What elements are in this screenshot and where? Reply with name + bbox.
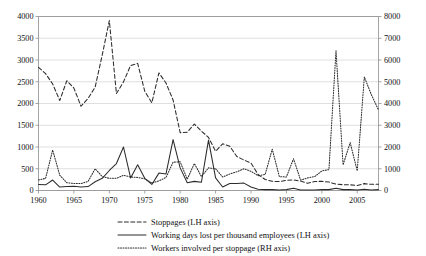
x-axis-ticks: 1960196519701975198019851990199520002005 xyxy=(30,191,365,206)
left-axis-tick-label: 1000 xyxy=(17,143,33,152)
right-axis-tick-label: 8000 xyxy=(384,12,400,21)
x-axis-tick-label: 1960 xyxy=(30,196,46,205)
right-axis-tick-label: 0 xyxy=(384,186,388,195)
right-axis-tick-label: 1000 xyxy=(384,165,400,174)
x-axis-tick-label: 1995 xyxy=(278,196,294,205)
x-axis-tick-label: 2005 xyxy=(349,196,365,205)
left-axis-tick-label: 3000 xyxy=(17,56,33,65)
left-axis-tick-label: 3500 xyxy=(17,34,33,43)
legend-label-1: Working days lost per thousand employees… xyxy=(151,231,329,240)
x-axis-tick-label: 1985 xyxy=(207,196,223,205)
x-axis-tick-label: 2000 xyxy=(314,196,330,205)
right-axis-tick-label: 5000 xyxy=(384,78,400,87)
grid-layer xyxy=(39,17,379,191)
right-axis-tick-label: 2000 xyxy=(384,143,400,152)
right-axis-tick-label: 7000 xyxy=(384,34,400,43)
legend-label-2: Workers involved per stoppage (RH axis) xyxy=(151,244,290,253)
chart-container: 05001000150020002500300035004000 0100020… xyxy=(0,0,426,256)
x-axis-tick-label: 1975 xyxy=(137,196,153,205)
right-axis-tick-label: 4000 xyxy=(384,99,400,108)
x-axis-tick-label: 1980 xyxy=(172,196,188,205)
left-axis-ticks: 05001000150020002500300035004000 xyxy=(17,12,38,195)
left-axis-tick-label: 4000 xyxy=(17,12,33,21)
right-axis-tick-label: 3000 xyxy=(384,121,400,130)
line-chart: 05001000150020002500300035004000 0100020… xyxy=(0,0,426,256)
left-axis-tick-label: 500 xyxy=(21,165,33,174)
left-axis-tick-label: 2500 xyxy=(17,78,33,87)
legend-label-0: Stoppages (LH axis) xyxy=(151,218,220,227)
right-axis-ticks: 010002000300040005000600070008000 xyxy=(379,12,401,195)
x-axis-tick-label: 1970 xyxy=(101,196,117,205)
series-line-2 xyxy=(39,51,379,184)
left-axis-tick-label: 0 xyxy=(29,186,33,195)
x-axis-tick-label: 1990 xyxy=(243,196,259,205)
x-axis-tick-label: 1965 xyxy=(66,196,82,205)
series-layer xyxy=(39,21,379,190)
left-axis-tick-label: 1500 xyxy=(17,121,33,130)
series-line-0 xyxy=(39,21,379,186)
chart-legend: Stoppages (LH axis)Working days lost per… xyxy=(118,218,329,253)
right-axis-tick-label: 6000 xyxy=(384,56,400,65)
left-axis-tick-label: 2000 xyxy=(17,99,33,108)
